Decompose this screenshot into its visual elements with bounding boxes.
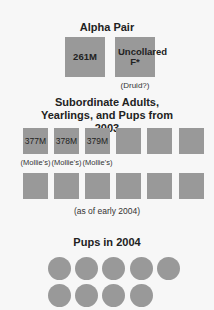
pup-circle [48, 284, 71, 307]
pup-circle [130, 257, 153, 280]
pup-circle [75, 284, 98, 307]
alpha-male-label: 261M [73, 52, 97, 62]
subordinate-note: (Mollie's) [19, 158, 52, 167]
subordinate-label: 377M [25, 136, 46, 146]
subordinates-footnote: (as of early 2004) [0, 206, 214, 216]
subordinate-square: 379M [85, 128, 110, 154]
pup-circle [157, 257, 180, 280]
alpha-pair-title: Alpha Pair [0, 21, 214, 34]
wolf-pack-diagram: { "alpha_pair": { "title": "Alpha Pair",… [0, 0, 214, 310]
subordinate-square: 377M [23, 128, 48, 154]
subordinate-square [179, 128, 204, 154]
alpha-male-square: 261M [65, 37, 105, 77]
pup-circle [102, 257, 125, 280]
subordinate-square [147, 128, 172, 154]
alpha-female-label: Uncollared F* [118, 47, 152, 67]
pup-circle [102, 284, 125, 307]
subordinate-square [147, 173, 172, 199]
alpha-female-note: (Druid?) [115, 81, 155, 90]
subordinate-square [179, 173, 204, 199]
pups-title: Pups in 2004 [0, 236, 214, 249]
alpha-female-square: Uncollared F* [115, 37, 155, 77]
subordinate-note: (Mollie's) [81, 158, 114, 167]
subordinate-label: 378M [56, 136, 77, 146]
subordinate-square [116, 128, 141, 154]
pup-circle [48, 257, 71, 280]
subordinate-note: (Mollie's) [50, 158, 83, 167]
pup-circle [130, 284, 153, 307]
subordinate-square: 378M [54, 128, 79, 154]
pup-circle [75, 257, 98, 280]
subordinate-square [54, 173, 79, 199]
subordinate-square [85, 173, 110, 199]
subordinate-square [23, 173, 48, 199]
subordinate-label: 379M [87, 136, 108, 146]
subordinate-square [116, 173, 141, 199]
